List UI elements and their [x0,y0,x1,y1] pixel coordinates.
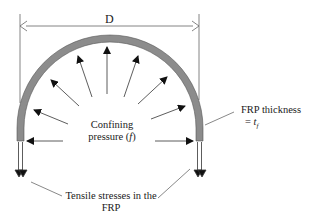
confining-pressure-label: Confining pressure (f) [84,119,140,143]
frp-confinement-diagram: D Confining pressure (f) FRP thickness =… [0,0,319,222]
tensile-stresses-label: Tensile stresses in the FRP [62,190,160,214]
frp-thickness-line1: FRP thickness [241,104,301,116]
frp-thickness-line2: = tf [241,116,301,132]
tensile-stresses-line2: FRP [62,202,160,214]
dimension-label: D [105,13,114,25]
confining-pressure-line2: pressure (f) [84,131,140,143]
tensile-arrows [15,142,206,177]
frp-thickness-label: FRP thickness = tf [241,104,301,132]
confining-pressure-line1: Confining [84,119,140,131]
tensile-stresses-line1: Tensile stresses in the [62,190,160,202]
